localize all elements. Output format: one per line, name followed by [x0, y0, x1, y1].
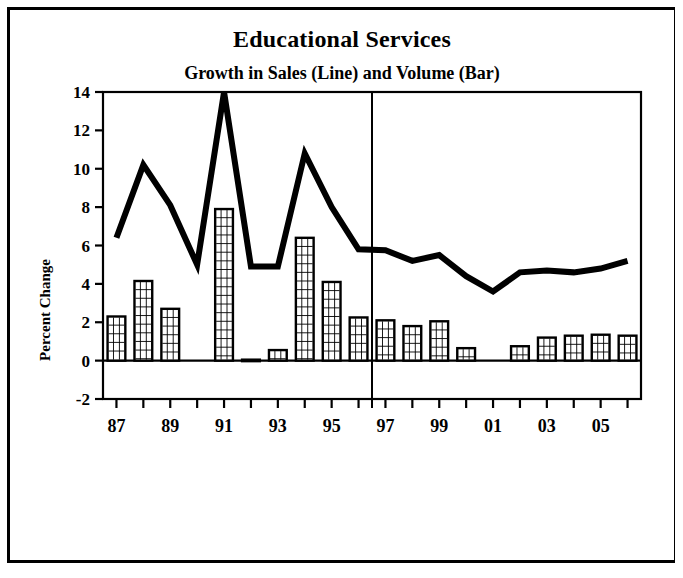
- x-tick-label: 99: [430, 416, 448, 436]
- y-tick-labels: -202468101214: [73, 83, 91, 409]
- bar: [430, 321, 448, 360]
- bar: [161, 309, 179, 361]
- y-tick-label: -2: [76, 390, 90, 409]
- x-tick-label: 95: [323, 416, 341, 436]
- chart-canvas: Percent Change -202468101214 87899193959…: [10, 10, 678, 566]
- x-tick-label: 01: [484, 416, 502, 436]
- x-tick-label: 05: [592, 416, 610, 436]
- page-border: Educational Services Growth in Sales (Li…: [7, 7, 675, 563]
- bar: [511, 346, 529, 360]
- bar: [538, 338, 556, 361]
- bar: [296, 238, 314, 361]
- bar: [377, 320, 395, 360]
- y-axis-title-text: Percent Change: [37, 259, 53, 361]
- bar: [108, 316, 126, 360]
- bar: [592, 335, 610, 361]
- bar: [269, 350, 287, 361]
- bar: [323, 282, 341, 361]
- y-tick-label: 0: [82, 352, 91, 371]
- x-tick-labels: 87899193959799010305: [107, 416, 609, 436]
- y-tick-label: 14: [73, 83, 91, 102]
- bar: [457, 348, 475, 360]
- x-tick-label: 91: [215, 416, 233, 436]
- x-tick-label: 03: [538, 416, 556, 436]
- y-tick-label: 12: [73, 121, 90, 140]
- y-axis-title: Percent Change: [37, 259, 53, 361]
- bar: [350, 317, 368, 360]
- y-tick-label: 6: [82, 237, 91, 256]
- y-tick-label: 10: [73, 160, 90, 179]
- bar: [134, 281, 152, 361]
- bar: [619, 336, 637, 361]
- y-tick-label: 2: [82, 313, 91, 332]
- bar: [565, 336, 583, 361]
- x-tick-label: 89: [161, 416, 179, 436]
- y-tick-label: 4: [82, 275, 91, 294]
- bar: [215, 209, 233, 361]
- bar: [403, 326, 421, 361]
- bar: [242, 360, 260, 362]
- x-tick-label: 87: [107, 416, 125, 436]
- x-tick-label: 97: [376, 416, 394, 436]
- y-tick-label: 8: [82, 198, 91, 217]
- x-tick-label: 93: [269, 416, 287, 436]
